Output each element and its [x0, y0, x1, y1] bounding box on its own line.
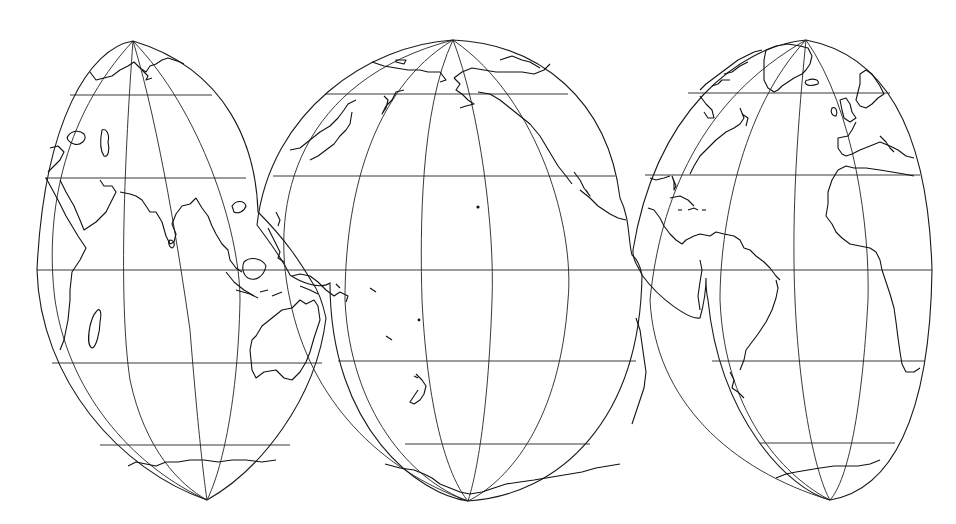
- coast-new-zealand: [410, 374, 426, 404]
- coast-iceland: [805, 79, 818, 85]
- coast-brazil: [740, 280, 778, 370]
- coast-italy: [880, 136, 894, 152]
- coast-britain: [840, 98, 856, 122]
- coast-indochina: [196, 198, 242, 272]
- island-hawaii: [476, 205, 479, 208]
- coast-siberia-east: [372, 62, 446, 82]
- coast-scandinavia: [856, 70, 884, 108]
- coast-africa-north: [838, 166, 914, 176]
- coast-hudson-bay: [700, 96, 714, 118]
- world-map: [0, 0, 956, 524]
- coast-japan: [310, 112, 352, 160]
- coast-east-asia: [290, 100, 356, 150]
- coast-arabia: [60, 180, 116, 230]
- coast-gulf-alaska: [478, 92, 572, 184]
- meridians: [52, 40, 868, 501]
- coast-philippines: [268, 228, 284, 262]
- coast-north-america-east: [690, 108, 744, 174]
- coast-florida: [672, 176, 676, 190]
- coast-alaska: [454, 64, 550, 78]
- coast-china-south: [232, 202, 246, 213]
- coast-south-america-north: [694, 232, 780, 280]
- coast-alaska-west: [454, 78, 474, 108]
- coast-antarctica-right: [776, 460, 880, 478]
- coast-europe-west: [838, 122, 856, 156]
- coast-central-america: [648, 208, 694, 244]
- coast-caspian: [101, 130, 109, 157]
- map-canvas: [0, 0, 956, 524]
- coast-black-sea: [67, 131, 85, 144]
- coast-mediterranean: [852, 142, 914, 158]
- coast-south-america-west: [698, 260, 702, 310]
- coast-india: [120, 192, 196, 244]
- coast-africa-west: [826, 170, 906, 372]
- coast-chile: [632, 318, 646, 424]
- coast-arctic-eurasia: [90, 58, 184, 80]
- lobe-pacific-outline: [257, 40, 642, 501]
- lobe-outlines: [37, 40, 932, 501]
- coast-madagascar: [89, 310, 101, 348]
- coast-borneo: [243, 259, 266, 280]
- coast-cuba: [670, 196, 694, 206]
- coast-ireland: [831, 108, 837, 116]
- coast-australia: [250, 300, 320, 380]
